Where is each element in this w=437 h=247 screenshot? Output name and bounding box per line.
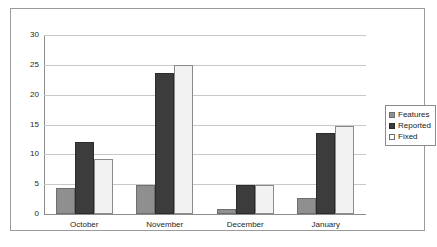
y-tick-label: 30 bbox=[30, 31, 39, 39]
bar-group bbox=[125, 35, 206, 214]
chart-legend: FeaturesReportedFixed bbox=[385, 105, 436, 146]
x-tick-label-january: January bbox=[312, 221, 340, 229]
legend-swatch-icon-features bbox=[389, 112, 395, 118]
bar-group bbox=[44, 35, 125, 214]
x-tick-label-november: November bbox=[146, 221, 183, 229]
bar-reported-january bbox=[316, 133, 335, 214]
legend-item-reported[interactable]: Reported bbox=[389, 120, 431, 131]
legend-item-features[interactable]: Features bbox=[389, 109, 431, 120]
y-axis-tick-labels: 051015202530 bbox=[11, 35, 39, 214]
legend-label: Features bbox=[398, 111, 430, 119]
legend-swatch-icon-fixed bbox=[389, 134, 395, 140]
y-tick-label: 0 bbox=[35, 210, 39, 218]
bar-reported-october bbox=[75, 142, 94, 214]
bar-fixed-december bbox=[255, 185, 274, 214]
bar-features-november bbox=[136, 185, 155, 214]
bar-features-december bbox=[217, 209, 236, 214]
bar-features-january bbox=[297, 198, 316, 214]
bars-row bbox=[286, 35, 367, 214]
bar-fixed-november bbox=[174, 65, 193, 214]
bar-fixed-october bbox=[94, 159, 113, 214]
bars-row bbox=[44, 35, 125, 214]
gridline-0 bbox=[44, 214, 366, 215]
bar-features-october bbox=[56, 188, 75, 214]
y-tick-label: 10 bbox=[30, 150, 39, 158]
bar-fixed-january bbox=[335, 126, 354, 214]
y-tick-label: 25 bbox=[30, 61, 39, 69]
bars-row bbox=[125, 35, 206, 214]
legend-label: Reported bbox=[398, 122, 431, 130]
bar-reported-november bbox=[155, 73, 174, 214]
bars-row bbox=[205, 35, 286, 214]
y-tick-label: 5 bbox=[35, 180, 39, 188]
plot-area: OctoberNovemberDecemberJanuary bbox=[44, 35, 366, 214]
y-tick-label: 20 bbox=[30, 91, 39, 99]
legend-item-fixed[interactable]: Fixed bbox=[389, 131, 431, 142]
bar-group bbox=[205, 35, 286, 214]
x-tick-label-october: October bbox=[70, 221, 98, 229]
legend-label: Fixed bbox=[398, 133, 418, 141]
bar-reported-december bbox=[236, 185, 255, 214]
y-tick-label: 15 bbox=[30, 121, 39, 129]
legend-swatch-icon-reported bbox=[389, 123, 395, 129]
x-tick-label-december: December bbox=[227, 221, 264, 229]
chart-frame: 051015202530 OctoberNovemberDecemberJanu… bbox=[10, 8, 425, 231]
bar-group bbox=[286, 35, 367, 214]
